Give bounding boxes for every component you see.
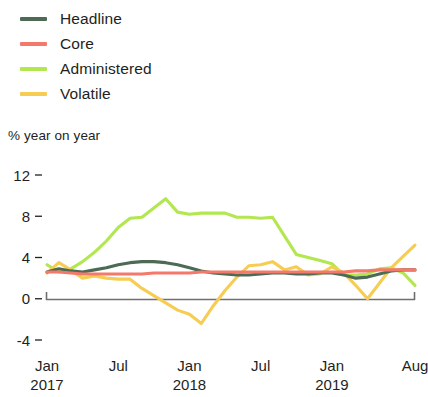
- y-tick-label: -4: [17, 332, 30, 349]
- x-tick-label: Aug: [402, 357, 428, 374]
- series-line-volatile: [47, 245, 415, 323]
- x-axis-ticks: Jan2017JulJan2018JulJan2019Aug: [30, 357, 428, 393]
- y-tick-label: 8: [22, 208, 30, 225]
- inflation-line-chart: Headline Core Administered Volatile % ye…: [0, 0, 428, 397]
- y-tick-label: 0: [22, 290, 30, 307]
- x-tick-sublabel: 2018: [173, 376, 206, 393]
- x-tick-label: Jan: [35, 357, 59, 374]
- x-tick-label: Jan: [320, 357, 344, 374]
- x-tick-label: Jul: [251, 357, 270, 374]
- plot-area: 12840-4 Jan2017JulJan2018JulJan2019Aug: [0, 0, 428, 397]
- x-tick-label: Jul: [109, 357, 128, 374]
- series-lines: [47, 199, 415, 324]
- y-tick-label: 4: [22, 249, 30, 266]
- y-tick-label: 12: [13, 167, 30, 184]
- y-axis-ticks: 12840-4: [13, 167, 42, 349]
- x-tick-label: Jan: [177, 357, 201, 374]
- x-tick-sublabel: 2019: [315, 376, 348, 393]
- x-tick-sublabel: 2017: [30, 376, 63, 393]
